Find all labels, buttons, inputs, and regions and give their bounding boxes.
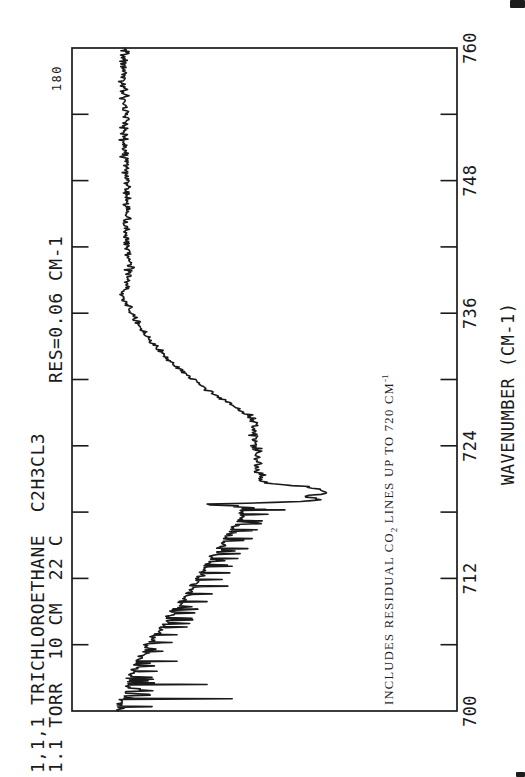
co2-annotation-sub: 2 [389,528,399,533]
x-tick-label: 760 [462,18,479,78]
x-tick-label: 736 [462,283,479,343]
spectrum-trace [117,48,327,711]
co2-annotation-sup: -1 [380,375,390,383]
rotated-chart-canvas: 1,1,1 TRICHLOROETHANE C2H3CL3 1.1 TORR 1… [0,0,525,777]
co2-annotation-mid: LINES UP TO 720 CM [382,382,396,528]
scan-artifact [510,0,525,8]
x-tick-label: 712 [462,548,479,608]
scanned-spectrum-page: 1,1,1 TRICHLOROETHANE C2H3CL3 1.1 TORR 1… [0,0,525,777]
x-tick-label: 748 [462,151,479,211]
co2-annotation-pre: INCLUDES RESIDUAL CO [382,532,396,705]
scan-artifact [516,772,525,777]
spectrum-plot [0,0,525,777]
co2-annotation: INCLUDES RESIDUAL CO2 LINES UP TO 720 CM… [381,375,399,705]
x-tick-label: 700 [462,681,479,741]
plot-frame [72,48,457,711]
x-tick-label: 724 [462,416,479,476]
x-axis-title: WAVENUMBER (CM-1) [500,303,517,486]
